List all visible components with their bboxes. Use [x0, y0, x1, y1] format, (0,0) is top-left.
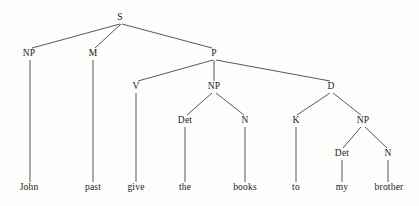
tree-leaf-leaf-the: the: [179, 183, 191, 193]
tree-edge: [216, 93, 244, 115]
tree-leaf-leaf-brother: brother: [375, 183, 404, 193]
tree-leaf-leaf-past: past: [85, 183, 101, 193]
tree-node-s: S: [117, 13, 122, 23]
tree-edge: [138, 60, 213, 81]
tree-node-np3: NP: [357, 116, 370, 126]
tree-node-np2: NP: [208, 82, 221, 92]
tree-node-det2: Det: [335, 149, 349, 159]
tree-node-n2: N: [384, 149, 391, 159]
tree-edge: [343, 127, 361, 148]
tree-node-np1: NP: [23, 49, 36, 59]
tree-node-det1: Det: [178, 116, 192, 126]
tree-leaf-leaf-books: books: [233, 183, 257, 193]
tree-leaf-leaf-give: give: [127, 183, 144, 193]
tree-leaf-leaf-to: to: [292, 183, 300, 193]
tree-edge: [297, 93, 330, 115]
tree-edge: [32, 24, 120, 48]
tree-edge: [122, 24, 212, 48]
tree-node-n1: N: [241, 116, 248, 126]
tree-node-p: P: [211, 49, 216, 59]
tree-edges-layer: [0, 0, 419, 206]
tree-leaf-leaf-john: John: [20, 183, 39, 193]
tree-node-m: M: [89, 49, 98, 59]
tree-node-d: D: [327, 82, 334, 92]
tree-node-v: V: [132, 82, 139, 92]
tree-leaf-leaf-my: my: [336, 183, 349, 193]
tree-edge: [333, 93, 361, 115]
syntax-tree-figure: SNPMPVNPDDetNKNPDetN Johnpastgivethebook…: [0, 0, 419, 206]
tree-edge: [365, 127, 387, 148]
tree-node-k: K: [292, 116, 299, 126]
tree-edge: [187, 93, 212, 115]
tree-edge: [216, 60, 330, 81]
